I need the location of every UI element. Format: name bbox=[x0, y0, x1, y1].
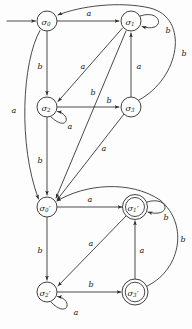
edge-label-s3p-s1p: a bbox=[140, 246, 145, 255]
edge-s0-s0p bbox=[25, 31, 40, 200]
state-label-s0p: σ0′ bbox=[39, 203, 50, 213]
state-node-s1p[interactable]: σ1′ bbox=[123, 195, 148, 220]
state-label-s2p: σ2′ bbox=[39, 288, 50, 298]
edge-s1p-s2p bbox=[58, 215, 127, 286]
edge-label-s1p-s2p: a bbox=[89, 239, 94, 248]
edge-s1-s0p bbox=[56, 31, 126, 198]
edge-label-s1-self: b bbox=[165, 26, 170, 35]
automata-diagram: a b a b a b a b b a b a a b b a bbox=[0, 0, 192, 329]
state-node-s3p[interactable]: σ3′ bbox=[122, 279, 148, 305]
state-label-s3p: σ3′ bbox=[127, 288, 138, 298]
edge-label-s0p-s2p: b bbox=[37, 246, 42, 255]
upper-automaton-edge-labels: a b a b a b a b b a b a bbox=[12, 9, 187, 165]
state-node-s0p[interactable]: σ0′ bbox=[37, 197, 57, 217]
upper-automaton-nodes: σ0 σ1 σ2 σ3 bbox=[37, 11, 141, 117]
edge-label-s2-self: a bbox=[68, 122, 73, 131]
state-node-s3[interactable]: σ3 bbox=[121, 97, 141, 117]
edge-label-s0-s1: a bbox=[87, 9, 92, 18]
state-node-s1[interactable]: σ1 bbox=[121, 11, 141, 31]
edge-label-s1-s2: a bbox=[81, 62, 86, 71]
state-node-s0[interactable]: σ0 bbox=[37, 11, 57, 31]
edge-label-s3-s0: b bbox=[181, 49, 186, 58]
upper-automaton-edges bbox=[7, 5, 175, 200]
edge-label-s1p-self: b bbox=[163, 213, 168, 222]
edge-label-s2-s3: b bbox=[106, 96, 111, 105]
edge-label-s2p-s3p: b bbox=[88, 280, 93, 289]
lower-automaton-edge-labels: a b b a a b a b bbox=[37, 195, 185, 317]
edge-label-s2p-self: a bbox=[74, 308, 79, 317]
edge-label-s1-s0p: b bbox=[90, 88, 95, 97]
edge-label-s3p-s0p: b bbox=[180, 235, 185, 244]
state-label-s1p: σ1′ bbox=[127, 203, 138, 213]
edge-label-s0-s2: b bbox=[37, 62, 42, 71]
state-node-s2[interactable]: σ2 bbox=[37, 97, 57, 117]
state-node-s2p[interactable]: σ2′ bbox=[37, 282, 57, 302]
edge-label-s3-s1: a bbox=[137, 62, 142, 71]
edge-label-s3-s0p: a bbox=[102, 144, 107, 153]
lower-automaton-edges bbox=[47, 187, 178, 310]
edge-label-s0-s0p: a bbox=[12, 106, 17, 115]
edge-label-s0p-s1p: a bbox=[88, 195, 93, 204]
edge-label-s2-s0p: b bbox=[37, 156, 42, 165]
edge-s1-self bbox=[140, 14, 159, 27]
diagram-canvas: a b a b a b a b b a b a a b b a bbox=[0, 0, 192, 329]
